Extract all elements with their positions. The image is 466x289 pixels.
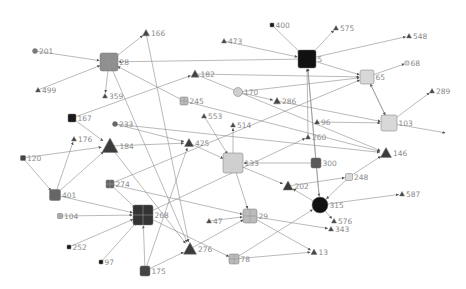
triangle-node-icon[interactable] bbox=[311, 249, 317, 254]
triangle-node-icon[interactable] bbox=[222, 39, 227, 44]
triangle-node-icon[interactable] bbox=[407, 34, 412, 39]
node-182[interactable]: 182 bbox=[191, 70, 215, 79]
triangle-node-icon[interactable] bbox=[72, 137, 77, 142]
node-252[interactable]: 252 bbox=[67, 243, 87, 252]
triangle-node-icon[interactable] bbox=[332, 219, 337, 224]
node-401[interactable]: 401 bbox=[50, 190, 77, 201]
node-473[interactable]: 473 bbox=[222, 37, 243, 46]
node-label: 96 bbox=[321, 118, 331, 127]
node-201[interactable]: 201 bbox=[33, 47, 54, 56]
triangle-node-icon[interactable] bbox=[103, 94, 108, 99]
node-68[interactable]: 68 bbox=[405, 59, 420, 68]
node-514[interactable]: 514 bbox=[231, 121, 252, 130]
node-286[interactable]: 286 bbox=[274, 97, 297, 106]
square-node-icon[interactable] bbox=[381, 115, 397, 131]
circle-node-icon[interactable] bbox=[234, 88, 243, 97]
triangle-node-icon[interactable] bbox=[36, 88, 41, 93]
node-175[interactable]: 175 bbox=[140, 266, 166, 276]
node-170[interactable]: 170 bbox=[234, 88, 259, 98]
triangle-node-icon[interactable] bbox=[143, 30, 150, 36]
node-233[interactable]: 233 bbox=[113, 120, 134, 129]
square-node-icon[interactable] bbox=[58, 214, 63, 219]
node-97[interactable]: 97 bbox=[99, 258, 114, 267]
node-146[interactable]: 146 bbox=[381, 148, 408, 159]
square-node-icon[interactable] bbox=[68, 114, 76, 122]
triangle-node-icon[interactable] bbox=[430, 89, 435, 94]
node-label: 343 bbox=[335, 225, 350, 234]
node-label: 97 bbox=[105, 258, 115, 267]
node-315[interactable]: 315 bbox=[312, 197, 344, 213]
node-label: 28 bbox=[120, 58, 130, 67]
node-400[interactable]: 400 bbox=[270, 21, 290, 30]
node-47[interactable]: 47 bbox=[207, 217, 223, 226]
node-96[interactable]: 96 bbox=[315, 118, 331, 127]
triangle-node-icon[interactable] bbox=[381, 148, 392, 158]
node-245[interactable]: 245 bbox=[180, 97, 204, 106]
square-node-icon[interactable] bbox=[50, 190, 61, 201]
triangle-node-icon[interactable] bbox=[184, 243, 197, 255]
node-289[interactable]: 289 bbox=[430, 87, 451, 96]
edge-167-to-182 bbox=[72, 76, 190, 118]
edge-268-to-260 bbox=[143, 139, 305, 216]
node-425[interactable]: 425 bbox=[185, 139, 210, 149]
square-node-icon[interactable] bbox=[298, 50, 316, 68]
triangle-node-icon[interactable] bbox=[191, 70, 199, 77]
circle-node-icon[interactable] bbox=[312, 197, 328, 213]
node-548[interactable]: 548 bbox=[407, 32, 428, 41]
node-28[interactable]: 28 bbox=[100, 53, 129, 71]
node-343[interactable]: 343 bbox=[329, 225, 350, 234]
square-node-icon[interactable] bbox=[140, 266, 150, 276]
circle-node-icon[interactable] bbox=[113, 122, 118, 127]
node-label: 146 bbox=[393, 149, 408, 158]
node-575[interactable]: 575 bbox=[334, 24, 355, 33]
square-node-icon[interactable] bbox=[360, 70, 374, 84]
node-label: 68 bbox=[411, 59, 421, 68]
node-176[interactable]: 176 bbox=[72, 135, 93, 144]
node-587[interactable]: 587 bbox=[400, 190, 421, 199]
node-label: 289 bbox=[436, 87, 451, 96]
node-65[interactable]: 65 bbox=[360, 70, 385, 84]
node-274[interactable]: 274 bbox=[106, 180, 130, 189]
triangle-node-icon[interactable] bbox=[334, 26, 339, 31]
node-29[interactable]: 29 bbox=[243, 209, 268, 223]
node-5[interactable]: 5 bbox=[298, 50, 323, 68]
node-202[interactable]: 202 bbox=[283, 181, 309, 191]
node-label: 286 bbox=[282, 97, 297, 106]
node-78[interactable]: 78 bbox=[229, 254, 250, 264]
square-node-icon[interactable] bbox=[405, 61, 409, 65]
square-node-icon[interactable] bbox=[21, 156, 26, 161]
node-label: 248 bbox=[354, 173, 369, 182]
node-120[interactable]: 120 bbox=[21, 154, 42, 163]
node-268[interactable]: 268 bbox=[133, 205, 169, 225]
node-248[interactable]: 248 bbox=[346, 173, 369, 182]
triangle-node-icon[interactable] bbox=[306, 135, 311, 140]
triangle-node-icon[interactable] bbox=[400, 192, 405, 197]
square-node-icon[interactable] bbox=[270, 23, 274, 27]
triangle-node-icon[interactable] bbox=[202, 114, 207, 119]
triangle-node-icon[interactable] bbox=[185, 139, 194, 147]
node-133[interactable]: 133 bbox=[223, 153, 259, 173]
node-359[interactable]: 359 bbox=[103, 92, 124, 101]
edge-layer bbox=[23, 25, 445, 271]
triangle-node-icon[interactable] bbox=[274, 98, 281, 104]
square-node-icon[interactable] bbox=[99, 260, 103, 264]
square-node-icon[interactable] bbox=[346, 174, 353, 181]
node-499[interactable]: 499 bbox=[36, 86, 57, 95]
triangle-node-icon[interactable] bbox=[329, 227, 334, 232]
node-276[interactable]: 276 bbox=[184, 243, 213, 255]
node-103[interactable]: 103 bbox=[381, 115, 413, 131]
node-184[interactable]: 184 bbox=[102, 138, 134, 152]
node-166[interactable]: 166 bbox=[143, 29, 166, 38]
node-167[interactable]: 167 bbox=[68, 114, 92, 123]
square-node-icon[interactable] bbox=[223, 153, 243, 173]
triangle-node-icon[interactable] bbox=[102, 138, 118, 152]
triangle-node-icon[interactable] bbox=[231, 123, 236, 128]
square-node-icon[interactable] bbox=[311, 158, 321, 168]
node-104[interactable]: 104 bbox=[58, 212, 79, 221]
circle-node-icon[interactable] bbox=[33, 49, 38, 54]
node-300[interactable]: 300 bbox=[311, 158, 337, 168]
node-13[interactable]: 13 bbox=[311, 248, 328, 257]
node-553[interactable]: 553 bbox=[202, 112, 223, 121]
node-260[interactable]: 260 bbox=[306, 133, 327, 142]
square-node-icon[interactable] bbox=[67, 245, 71, 249]
